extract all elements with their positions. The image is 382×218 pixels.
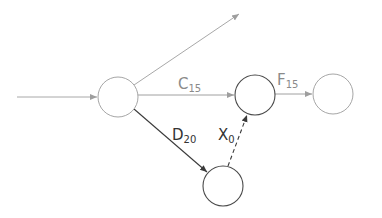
node-d [203, 166, 243, 206]
node-a [98, 77, 138, 117]
edge-label-d20: D20 [172, 126, 196, 145]
edge-label-x0: X0 [218, 126, 235, 145]
activity-network-diagram: C15 F15 D20 X0 [0, 0, 382, 218]
edge-label-f15: F15 [277, 71, 298, 90]
node-b [235, 75, 275, 115]
node-c [313, 74, 353, 114]
edge-label-c15: C15 [178, 75, 201, 94]
